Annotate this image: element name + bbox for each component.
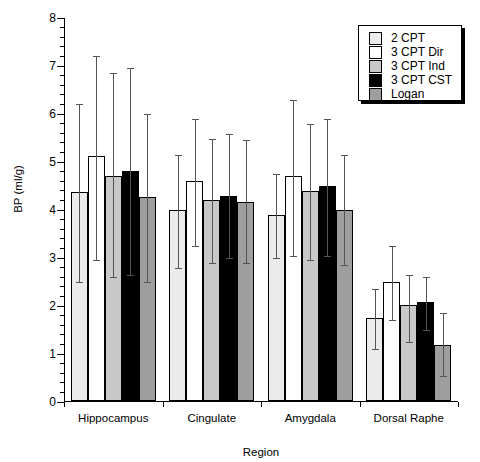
y-axis-tick-label: 3 (28, 252, 56, 264)
error-bar-cap (440, 376, 447, 377)
error-bar (212, 139, 213, 263)
y-axis-minor-tick (60, 190, 64, 191)
y-axis-minor-tick (60, 238, 64, 239)
error-bar-cap (127, 68, 134, 69)
y-axis-tick-label: 5 (28, 156, 56, 168)
error-bar-cap (175, 155, 182, 156)
error-bar (178, 155, 179, 268)
error-bar-cap (76, 104, 83, 105)
x-axis-tick (163, 402, 164, 407)
error-bar (229, 134, 230, 258)
y-axis-minor-tick (60, 75, 64, 76)
y-axis-minor-tick (60, 344, 64, 345)
error-bar-cap (273, 174, 280, 175)
y-axis-minor-tick (60, 142, 64, 143)
legend-item: 3 CPT Ind (359, 59, 461, 73)
error-bar-cap (93, 56, 100, 57)
y-axis-tick (57, 306, 64, 307)
y-axis-minor-tick (60, 133, 64, 134)
error-bar-cap (341, 265, 348, 266)
error-bar-cap (307, 124, 314, 125)
y-axis-tick (57, 162, 64, 163)
x-axis-category-label: Dorsal Raphe (374, 412, 444, 424)
x-axis-category-label: Hippocampus (78, 412, 148, 424)
error-bar-cap (324, 256, 331, 257)
error-bar-cap (127, 275, 134, 276)
error-bar-cap (226, 134, 233, 135)
error-bar (409, 275, 410, 342)
y-axis-minor-tick (60, 123, 64, 124)
error-bar (79, 104, 80, 282)
error-bar (195, 119, 196, 246)
y-axis-minor-tick (60, 104, 64, 105)
error-bar-cap (110, 73, 117, 74)
x-axis-tick (261, 402, 262, 407)
error-bar-cap (389, 320, 396, 321)
y-axis-tick-label: 2 (28, 300, 56, 312)
error-bar-cap (243, 140, 250, 141)
error-bar-cap (290, 100, 297, 101)
x-axis-tick (64, 402, 65, 407)
x-axis-category-label: Amygdala (285, 412, 336, 424)
y-axis-minor-tick (60, 315, 64, 316)
x-axis-tick (458, 402, 459, 407)
error-bar (310, 124, 311, 261)
error-bar (426, 277, 427, 330)
error-bar-cap (406, 275, 413, 276)
y-axis-minor-tick (60, 334, 64, 335)
x-axis-label: Region (64, 446, 458, 458)
y-axis-minor-tick (60, 286, 64, 287)
error-bar-cap (406, 342, 413, 343)
error-bar (276, 174, 277, 258)
bar-chart: BP (ml/g) 012345678 HippocampusCingulate… (0, 0, 480, 462)
y-axis-tick-label: 1 (28, 348, 56, 360)
y-axis-tick (57, 210, 64, 211)
legend-swatch (369, 46, 382, 59)
error-bar-cap (93, 260, 100, 261)
legend-label: 3 CPT Dir (391, 45, 443, 59)
legend-label: 3 CPT CST (391, 73, 452, 87)
error-bar-cap (324, 119, 331, 120)
y-axis-minor-tick (60, 27, 64, 28)
legend-item: 3 CPT Dir (359, 45, 461, 59)
error-bar (344, 155, 345, 265)
error-bar-cap (290, 256, 297, 257)
legend-item: Logan (359, 87, 461, 101)
y-axis-line (64, 18, 65, 402)
y-axis-tick (57, 114, 64, 115)
y-axis-minor-tick (60, 56, 64, 57)
error-bar-cap (273, 258, 280, 259)
y-axis-minor-tick (60, 325, 64, 326)
y-axis-minor-tick (60, 181, 64, 182)
x-axis-tick (360, 402, 361, 407)
y-axis-minor-tick (60, 94, 64, 95)
y-axis-tick (57, 18, 64, 19)
y-axis-tick (57, 66, 64, 67)
error-bar-cap (440, 313, 447, 314)
error-bar (96, 56, 97, 260)
error-bar-cap (144, 114, 151, 115)
y-axis-minor-tick (60, 219, 64, 220)
error-bar-cap (423, 330, 430, 331)
y-axis-minor-tick (60, 392, 64, 393)
error-bar-cap (209, 139, 216, 140)
error-bar-cap (226, 258, 233, 259)
y-axis-minor-tick (60, 46, 64, 47)
legend-swatch (369, 74, 382, 87)
y-axis-minor-tick (60, 382, 64, 383)
y-axis-minor-tick (60, 248, 64, 249)
y-axis-minor-tick (60, 37, 64, 38)
legend-item: 3 CPT CST (359, 73, 461, 87)
error-bar (293, 100, 294, 256)
y-axis-tick-label: 4 (28, 204, 56, 216)
legend: 2 CPT3 CPT Dir3 CPT Ind3 CPT CSTLogan (358, 25, 462, 101)
y-axis-tick (57, 354, 64, 355)
error-bar (443, 313, 444, 375)
error-bar-cap (144, 282, 151, 283)
error-bar-cap (192, 119, 199, 120)
legend-swatch (369, 32, 382, 45)
error-bar-cap (341, 155, 348, 156)
error-bar-cap (110, 277, 117, 278)
error-bar-cap (192, 246, 199, 247)
legend-item: 2 CPT (359, 31, 461, 45)
